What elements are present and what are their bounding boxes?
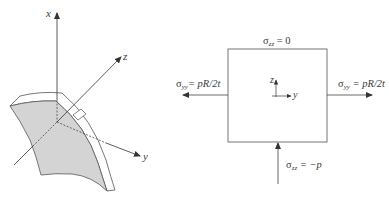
left-stress-label: σyy= pR/2t <box>176 79 220 91</box>
diagram-canvas <box>0 0 389 197</box>
inner-y-axis-label: y <box>293 90 297 100</box>
z-axis-lower <box>14 146 33 165</box>
z-axis-label: z <box>123 51 127 62</box>
right-stress-value: = pR/2t <box>353 78 385 89</box>
shell-element <box>10 92 115 191</box>
z-axis <box>57 57 121 122</box>
inner-z-axis-label: z <box>270 75 274 85</box>
top-stress-value: = 0 <box>277 35 291 46</box>
x-axis-label: x <box>46 8 51 19</box>
y-axis-label: y <box>143 151 148 162</box>
bottom-stress-label: σzz = −p <box>286 160 322 172</box>
y-axis <box>106 143 140 156</box>
stress-element-square <box>228 49 327 142</box>
left-stress-value: = pR/2t <box>188 78 220 89</box>
bottom-stress-value: = −p <box>300 159 322 170</box>
top-stress-label: σzz = 0 <box>263 36 291 48</box>
right-stress-label: σyy = pR/2t <box>338 79 385 91</box>
